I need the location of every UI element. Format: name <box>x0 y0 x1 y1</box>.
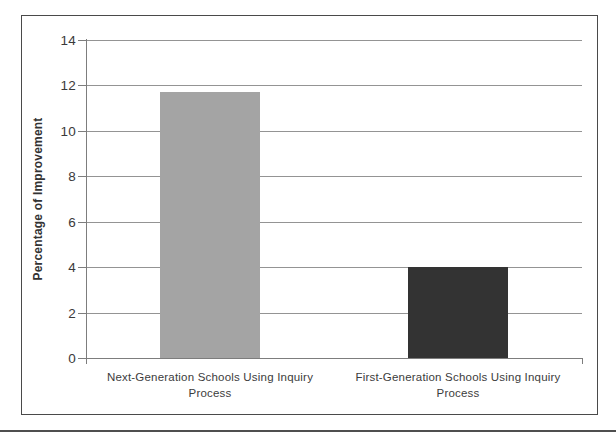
y-tick-label-10: 10 <box>42 124 76 139</box>
y-tick-2 <box>78 313 86 314</box>
gridline-12 <box>86 85 582 86</box>
y-tick-14 <box>78 40 86 41</box>
y-tick-label-6: 6 <box>42 215 76 230</box>
bottom-divider <box>0 430 616 432</box>
plot-area: 02468101214Next-Generation Schools Using… <box>0 0 616 439</box>
y-tick-label-8: 8 <box>42 169 76 184</box>
y-tick-4 <box>78 267 86 268</box>
y-tick-label-4: 4 <box>42 260 76 275</box>
y-tick-12 <box>78 85 86 86</box>
y-tick-6 <box>78 222 86 223</box>
x-axis-line <box>86 358 583 359</box>
y-tick-8 <box>78 176 86 177</box>
y-tick-label-14: 14 <box>42 33 76 48</box>
gridline-14 <box>86 40 582 41</box>
y-tick-0 <box>78 358 86 359</box>
category-label-first-generation: First-Generation Schools Using Inquiry P… <box>353 369 563 401</box>
y-tick-label-0: 0 <box>42 351 76 366</box>
y-tick-label-12: 12 <box>42 78 76 93</box>
bar-first-generation <box>408 267 508 358</box>
bar-next-generation <box>160 92 260 358</box>
y-tick-label-2: 2 <box>42 306 76 321</box>
x-axis-end-tick <box>582 358 583 364</box>
y-tick-10 <box>78 131 86 132</box>
category-label-next-generation: Next-Generation Schools Using Inquiry Pr… <box>105 369 315 401</box>
figure: Percentage of Improvement 02468101214Nex… <box>0 0 616 439</box>
y-axis-line <box>86 39 87 364</box>
